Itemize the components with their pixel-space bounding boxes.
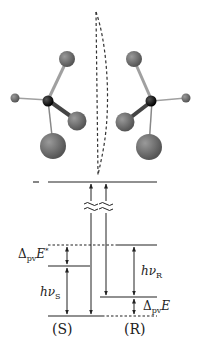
atom-top [126, 51, 142, 67]
molecule-left [11, 51, 87, 159]
atom-top [59, 51, 75, 67]
atom-center [146, 96, 157, 107]
label-S-enantiomer: (S) [52, 322, 73, 336]
atom-bottom-large [136, 134, 162, 160]
atom-right [68, 112, 87, 131]
atom-right-small [182, 94, 191, 103]
atom-left-small [11, 94, 20, 103]
label-delta-pv-E-star: ΔpvE* [18, 248, 49, 263]
label-h-nu-S: hνS [40, 286, 61, 301]
molecule-right [116, 51, 191, 160]
diagram-canvas [0, 0, 200, 348]
axis-break-icon [84, 203, 113, 211]
label-delta-pv-E: ΔpvE [143, 300, 170, 315]
mirror-plane [96, 12, 108, 175]
label-R-enantiomer: (R) [124, 322, 145, 336]
label-h-nu-R: hνR [141, 265, 162, 280]
atom-left [116, 113, 135, 132]
atom-center [43, 96, 54, 107]
atom-bottom-large [40, 133, 66, 159]
